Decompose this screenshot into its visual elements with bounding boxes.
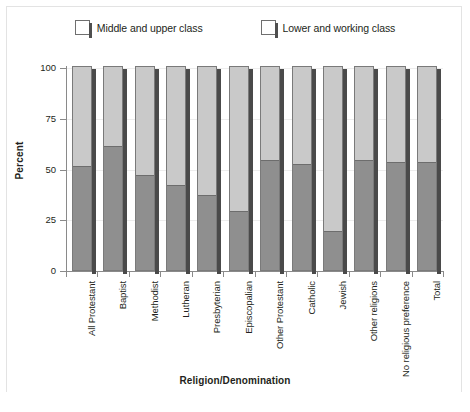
chart-figure: Middle and upper class Lower and working… — [0, 0, 470, 412]
bar-group — [323, 66, 343, 271]
bar-segment-lower-working-class — [167, 185, 185, 270]
x-axis-label-total: Total — [431, 281, 442, 301]
bar-methodist — [135, 66, 155, 271]
bar-shadow — [280, 69, 284, 274]
bar-baptist — [103, 66, 123, 271]
x-axis-label-catholic: Catholic — [306, 281, 317, 315]
bar-group — [135, 66, 155, 271]
bar-shadow — [312, 69, 316, 274]
bar-catholic — [292, 66, 312, 271]
y-tick-label-100: 100 — [26, 62, 56, 73]
bar-episcopalian — [229, 66, 249, 271]
x-tick-4 — [192, 271, 193, 277]
bar-group — [292, 66, 312, 271]
x-tick-9 — [349, 271, 350, 277]
x-axis-label-no-religious-preference: No religious preference — [400, 281, 411, 377]
bar-other-protestant — [260, 66, 280, 271]
bar-group — [260, 66, 280, 271]
x-tick-3 — [160, 271, 161, 277]
y-tick-label-75: 75 — [26, 113, 56, 124]
x-tick-0 — [66, 271, 67, 277]
x-tick-11 — [412, 271, 413, 277]
x-tick-1 — [97, 271, 98, 277]
bar-segment-lower-working-class — [261, 160, 279, 270]
bar-shadow — [217, 69, 221, 274]
x-axis-label-other-protestant: Other Protestant — [274, 281, 285, 349]
bar-segment-lower-working-class — [324, 231, 342, 270]
y-tick-label-0: 0 — [26, 265, 56, 276]
bar-shadow — [186, 69, 190, 274]
x-axis-label-other-religions: Other religions — [368, 281, 379, 341]
x-tick-2 — [129, 271, 130, 277]
x-axis-label-jewish: Jewish — [337, 281, 348, 309]
bar-segment-lower-working-class — [136, 175, 154, 270]
bar-group — [229, 66, 249, 271]
bar-group — [72, 66, 92, 271]
bar-other-religions — [354, 66, 374, 271]
bar-shadow — [123, 69, 127, 274]
y-tick-label-wrap-50: 50 — [26, 170, 56, 171]
bar-total — [417, 66, 437, 271]
bar-shadow — [437, 69, 441, 274]
x-axis-label-lutheran: Lutheran — [180, 281, 191, 318]
x-tick-6 — [255, 271, 256, 277]
bar-group — [197, 66, 217, 271]
bar-shadow — [249, 69, 253, 274]
plot-area: 1007550250 Percent All ProtestantBaptist… — [0, 0, 470, 412]
bar-shadow — [92, 69, 96, 274]
bar-group — [354, 66, 374, 271]
bar-group — [166, 66, 186, 271]
bars-layer — [66, 60, 443, 272]
bar-shadow — [343, 69, 347, 274]
bar-no-religious-preference — [386, 66, 406, 271]
bar-segment-lower-working-class — [387, 162, 405, 270]
bar-shadow — [406, 69, 410, 274]
bar-group — [103, 66, 123, 271]
bar-segment-lower-working-class — [198, 195, 216, 270]
bar-group — [417, 66, 437, 271]
bar-segment-lower-working-class — [293, 164, 311, 270]
y-tick-label-wrap-0: 0 — [26, 271, 56, 272]
x-axis-label-episcopalian: Episcopalian — [243, 281, 254, 334]
x-tick-10 — [380, 271, 381, 277]
bar-all-protestant — [72, 66, 92, 271]
y-tick-label-wrap-25: 25 — [26, 220, 56, 221]
x-axis-label-presbyterian: Presbyterian — [211, 281, 222, 333]
bar-group — [386, 66, 406, 271]
bar-segment-lower-working-class — [355, 160, 373, 270]
bar-presbyterian — [197, 66, 217, 271]
bar-shadow — [374, 69, 378, 274]
y-axis-title: Percent — [14, 126, 25, 196]
bar-shadow — [155, 69, 159, 274]
bar-segment-lower-working-class — [73, 166, 91, 270]
x-tick-7 — [286, 271, 287, 277]
bar-segment-lower-working-class — [418, 162, 436, 270]
x-axis-label-all-protestant: All Protestant — [86, 281, 97, 336]
x-axis-title: Religion/Denomination — [0, 375, 470, 386]
bar-jewish — [323, 66, 343, 271]
x-axis-label-baptist: Baptist — [117, 281, 128, 309]
bar-lutheran — [166, 66, 186, 271]
x-tick-5 — [223, 271, 224, 277]
x-tick-8 — [317, 271, 318, 277]
y-tick-label-wrap-100: 100 — [26, 68, 56, 69]
bar-segment-lower-working-class — [104, 146, 122, 270]
x-axis-label-methodist: Methodist — [149, 281, 160, 321]
y-tick-label-wrap-75: 75 — [26, 119, 56, 120]
y-tick-label-50: 50 — [26, 164, 56, 175]
x-tick-end — [443, 271, 444, 277]
y-tick-label-25: 25 — [26, 214, 56, 225]
bar-segment-lower-working-class — [230, 211, 248, 270]
